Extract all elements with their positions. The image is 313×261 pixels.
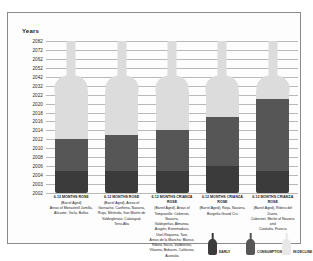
legend-item[interactable]: CONSUMPTION xyxy=(246,233,255,255)
wine-bottle-icon xyxy=(282,233,291,255)
plot-area: 2002200320042006200820102012201420162018… xyxy=(46,41,298,193)
caption-line: (Barrel Aged), Areas of xyxy=(148,206,196,211)
y-axis-tick-label: 2014 xyxy=(32,128,43,133)
zone-consumption xyxy=(156,130,189,170)
legend-label: CONSUMPTION xyxy=(257,250,282,254)
y-axis-tick-label: 2002 xyxy=(32,191,43,196)
bar-bottle[interactable] xyxy=(55,41,88,193)
caption-heading: 6-12 MONTHS CRIANZA ROSE xyxy=(249,195,297,206)
y-axis-tick-label: 2008 xyxy=(32,155,43,160)
caption-line: Alicante, Yecla, Bullas xyxy=(47,211,95,216)
y-axis-tick-label: 2072 xyxy=(32,47,43,52)
wine-bottle-icon xyxy=(208,233,217,255)
y-axis-title: Years xyxy=(22,28,39,34)
bottle-neck xyxy=(117,41,126,79)
legend-bottle-body xyxy=(208,239,217,255)
caption-line: (Barrel Aged), Ribera del Duero, xyxy=(249,206,297,217)
caption-line: Tempranillo: Cebreros, Navarra, xyxy=(148,212,196,223)
caption-heading: 6-12 MONTHS CRIANZA ROSE xyxy=(198,195,246,206)
bottle-body xyxy=(156,89,189,193)
gridline xyxy=(46,193,298,194)
y-axis-tick-label: 2016 xyxy=(32,119,43,124)
zone-early xyxy=(55,171,88,193)
bottle-body xyxy=(256,89,289,193)
caption-line: Vilaonia, Bobares, California, xyxy=(148,248,196,253)
y-axis-tick-label: 2006 xyxy=(32,164,43,169)
legend-bottle-body xyxy=(246,239,255,255)
bottle-neck xyxy=(67,41,76,79)
zone-early xyxy=(256,171,289,193)
zone-consumption xyxy=(105,135,138,171)
caption-heading: 6-12 MONTHS CRIANZA ROSE xyxy=(148,195,196,206)
y-axis-tick-label: 2003 xyxy=(32,182,43,187)
zone-early xyxy=(206,166,239,193)
bar-caption: 6-12 MONTHS ROSE(Barrel Aged), Areas ofG… xyxy=(97,195,145,227)
bar-bottle[interactable] xyxy=(206,41,239,193)
caption-line: Aragón, Extremadura, xyxy=(148,227,196,232)
legend-item[interactable]: EARLY xyxy=(208,233,217,255)
caption-line: Cabernet, Merlot of Navarra and xyxy=(249,217,297,228)
caption-line: (Barrel Aged), Rioja, Navarra, xyxy=(198,206,246,211)
chart-frame: Years 2002200320042006200820102012201420… xyxy=(7,12,301,244)
legend-item[interactable]: IN DECLINE xyxy=(282,233,291,255)
y-axis-tick-label: 2022 xyxy=(32,92,43,97)
y-axis-tick-label: 2062 xyxy=(32,56,43,61)
y-axis-tick-label: 2052 xyxy=(32,65,43,70)
caption-line: Rioja, Méntrida, San Martín de xyxy=(97,211,145,216)
y-axis-tick-label: 2032 xyxy=(32,83,43,88)
zone-consumption xyxy=(55,139,88,170)
y-axis-tick-label: 2004 xyxy=(32,173,43,178)
legend-bottle-body xyxy=(282,239,291,255)
bar-caption: 6-12 MONTHS ROSE(Barrel Aged)Areas of Mo… xyxy=(47,195,95,217)
bottle-body xyxy=(55,89,88,193)
wine-bottle-icon xyxy=(246,233,255,255)
bottle-neck xyxy=(168,41,177,79)
bottle-neck xyxy=(268,41,277,79)
bottle-body xyxy=(105,89,138,193)
bottle-body xyxy=(206,89,239,193)
y-axis-tick-label: 2010 xyxy=(32,146,43,151)
caption-line: Terra Alta xyxy=(97,222,145,227)
bottle-neck xyxy=(218,41,227,79)
caption-heading: 6-12 MONTHS ROSE xyxy=(47,195,95,200)
bar-bottle[interactable] xyxy=(156,41,189,193)
bar-bottle[interactable] xyxy=(256,41,289,193)
legend: EARLYCONSUMPTIONIN DECLINE xyxy=(208,227,304,255)
caption-line: Borgoña Grand Cru xyxy=(198,212,246,217)
legend-label: IN DECLINE xyxy=(293,250,312,254)
zone-early xyxy=(105,171,138,193)
y-axis-tick-label: 2020 xyxy=(32,101,43,106)
bar-bottle[interactable] xyxy=(105,41,138,193)
bar-caption: 6-12 MONTHS CRIANZA ROSE(Barrel Aged), R… xyxy=(198,195,246,217)
y-axis-tick-label: 2012 xyxy=(32,137,43,142)
bar-caption: 6-12 MONTHS CRIANZA ROSE(Barrel Aged), A… xyxy=(148,195,196,259)
zone-consumption xyxy=(206,117,239,166)
y-axis-tick-label: 2018 xyxy=(32,110,43,115)
caption-line: Australia xyxy=(148,254,196,259)
zone-consumption xyxy=(256,99,289,171)
legend-label: EARLY xyxy=(219,250,230,254)
y-axis-tick-label: 2042 xyxy=(32,74,43,79)
caption-heading: 6-12 MONTHS ROSE xyxy=(97,195,145,200)
y-axis-tick-label: 2082 xyxy=(32,39,43,44)
zone-early xyxy=(156,171,189,193)
